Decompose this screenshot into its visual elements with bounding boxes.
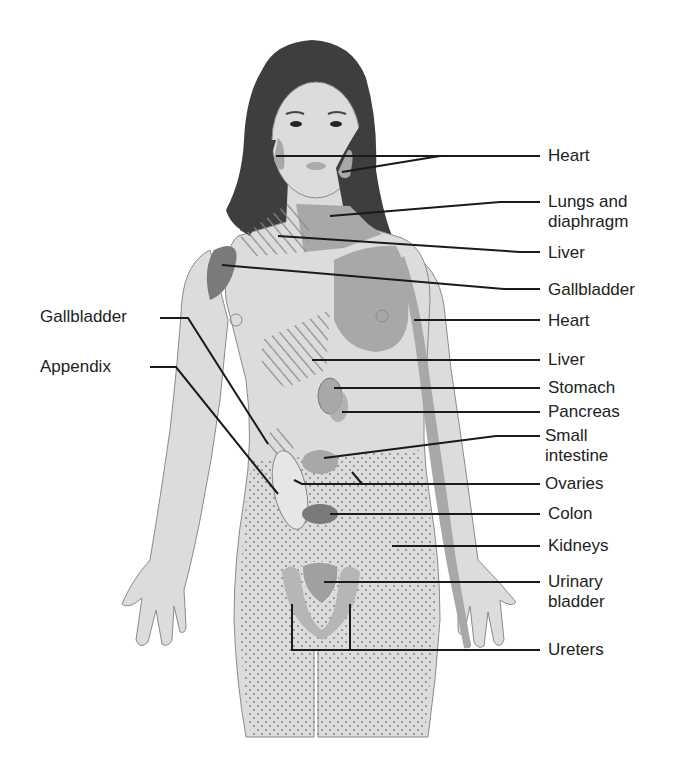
- label-gallbladder-1: Gallbladder: [548, 280, 635, 300]
- small-intestine-area: [302, 450, 338, 474]
- pancreas-area: [328, 390, 348, 422]
- label-liver-1: Liver: [548, 243, 585, 263]
- label-ovaries: Ovaries: [545, 474, 604, 494]
- label-small-intestine: Small intestine: [545, 426, 608, 466]
- label-colon: Colon: [548, 504, 592, 524]
- label-kidneys: Kidneys: [548, 536, 608, 556]
- label-heart-1: Heart: [548, 146, 590, 166]
- right-arm-figure-left: [122, 250, 228, 646]
- label-appendix: Appendix: [40, 357, 111, 377]
- left-eye: [290, 121, 302, 127]
- label-lungs-diaphragm: Lungs and diaphragm: [548, 192, 628, 232]
- label-urinary-bladder: Urinary bladder: [548, 572, 605, 612]
- label-liver-2: Liver: [548, 350, 585, 370]
- right-eye: [330, 121, 342, 127]
- label-heart-2: Heart: [548, 311, 590, 331]
- label-stomach: Stomach: [548, 378, 615, 398]
- lips: [306, 162, 326, 170]
- label-gallbladder-left: Gallbladder: [40, 307, 127, 327]
- label-pancreas: Pancreas: [548, 402, 620, 422]
- heart-chest-area: [334, 246, 408, 352]
- label-ureters: Ureters: [548, 640, 604, 660]
